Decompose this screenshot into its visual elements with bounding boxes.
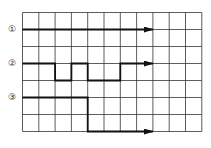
grid-diagram: ①②③ xyxy=(0,0,211,148)
trace-3-label: ③ xyxy=(8,92,16,102)
trace-2-arrow-path xyxy=(23,64,153,81)
trace-labels: ①②③ xyxy=(8,24,16,102)
trace-1-label: ① xyxy=(8,24,16,34)
trace-2-label: ② xyxy=(8,58,16,68)
